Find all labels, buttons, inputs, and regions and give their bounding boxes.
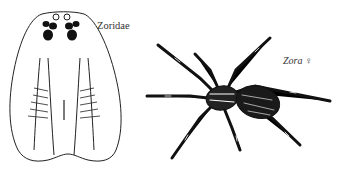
figure: Zoridae Zora ♀ (0, 0, 338, 170)
eye-group (43, 14, 80, 41)
illustration (0, 0, 338, 170)
genus-label: Zora ♀ (283, 55, 312, 66)
carapace-drawing (10, 12, 121, 161)
family-label: Zoridae (97, 20, 130, 31)
